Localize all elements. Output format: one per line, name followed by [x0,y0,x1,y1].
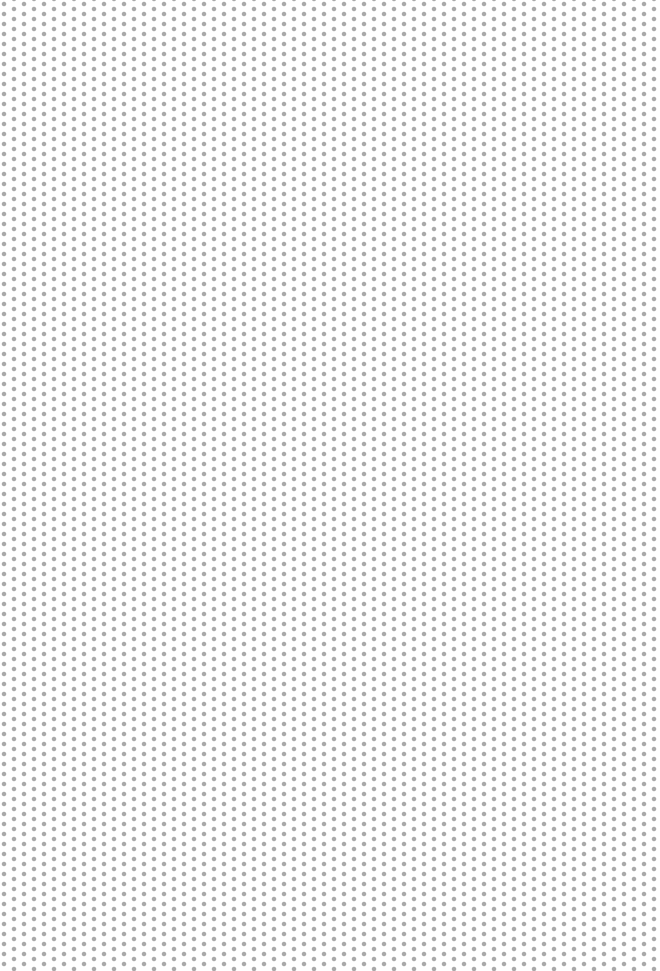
dot-pattern-background [0,0,660,971]
